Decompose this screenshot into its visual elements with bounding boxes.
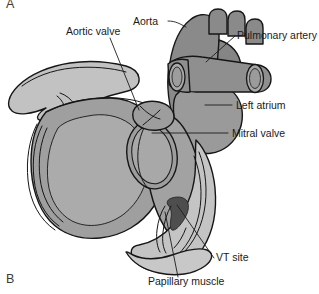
label-pulmonary-artery: Pulmonary artery	[237, 29, 318, 41]
label-aortic-valve: Aortic valve	[66, 25, 120, 37]
pulmonary-branch-lumen-left	[172, 67, 182, 87]
figure-panel-b: Aortic valve Aorta Pulmonary artery Left…	[0, 0, 319, 294]
label-aorta: Aorta	[133, 15, 158, 27]
heart-anatomy-illustration: Aortic valve Aorta Pulmonary artery Left…	[0, 0, 319, 294]
label-left-atrium: Left atrium	[236, 99, 286, 111]
leader-aorta	[168, 21, 186, 27]
label-vt-site: VT site	[216, 251, 249, 263]
panel-letter-a: A	[6, 0, 15, 11]
panel-letter-b: B	[6, 272, 14, 286]
pulmonary-artery-lumen-right	[250, 69, 261, 89]
brachiocephalic-stub	[209, 9, 227, 34]
label-papillary-muscle: Papillary muscle	[148, 275, 225, 287]
label-mitral-valve: Mitral valve	[232, 127, 285, 139]
